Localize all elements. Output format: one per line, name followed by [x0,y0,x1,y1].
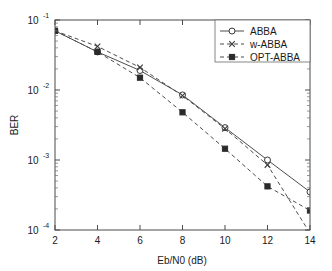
x-tick-label: 6 [137,235,143,246]
legend: ABBAw-ABBAOPT-ABBA [215,20,310,63]
y-tick-label: 10-3 [27,152,49,166]
svg-text:-4: -4 [43,222,49,229]
legend-label: OPT-ABBA [250,52,300,63]
y-tick-label: 10-1 [27,12,49,26]
svg-text:10: 10 [27,225,39,236]
x-axis-tick-labels: 2468101214 [52,235,316,246]
x-tick-label: 12 [262,235,274,246]
y-tick-label: 10-2 [27,82,49,96]
svg-text:10: 10 [27,85,39,96]
data-point-marker [222,146,227,151]
legend-label: w-ABBA [249,39,288,50]
data-point-marker [137,75,142,80]
y-axis-tick-labels: 10-110-210-310-4 [27,12,49,236]
y-tick-label: 10-4 [27,222,49,236]
x-tick-label: 10 [219,235,231,246]
svg-text:10: 10 [27,155,39,166]
x-tick-label: 4 [95,235,101,246]
data-point-marker [95,49,100,54]
x-tick-label: 14 [304,235,316,246]
legend-label: ABBA [250,26,277,37]
svg-text:-3: -3 [43,152,49,159]
data-point-marker [180,110,185,115]
data-point-marker [229,54,234,59]
chart-canvas: 2468101214 10-110-210-310-4 Eb/N0 (dB) B… [0,0,332,271]
x-tick-label: 8 [180,235,186,246]
y-axis-label: BER [9,115,20,136]
data-point-marker [265,184,270,189]
x-axis-label: Eb/N0 (dB) [157,255,206,266]
svg-text:10: 10 [27,15,39,26]
data-point-marker [137,67,143,73]
ber-performance-chart: 2468101214 10-110-210-310-4 Eb/N0 (dB) B… [0,0,332,271]
svg-text:-1: -1 [43,12,49,19]
x-tick-label: 2 [52,235,58,246]
svg-text:-2: -2 [43,82,49,89]
data-point-marker [222,125,228,131]
data-point-marker [229,28,235,34]
